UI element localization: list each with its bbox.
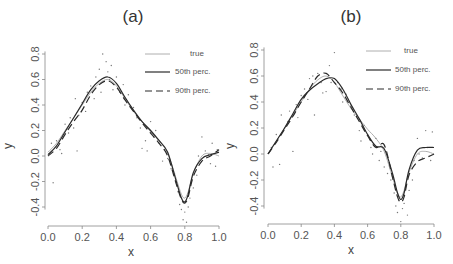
data-point bbox=[276, 134, 277, 135]
legend-p50-label: 50th perc. bbox=[395, 65, 431, 74]
data-point bbox=[99, 69, 100, 70]
data-point bbox=[309, 78, 310, 79]
data-point bbox=[193, 187, 194, 188]
series-50th-perc- bbox=[48, 77, 219, 202]
legend-true-label: true bbox=[190, 49, 204, 58]
data-point bbox=[100, 92, 101, 93]
y-tick-label: 0.6 bbox=[29, 72, 41, 87]
panel-a-title: (a) bbox=[123, 7, 144, 26]
data-point bbox=[330, 82, 331, 83]
data-point bbox=[93, 98, 94, 99]
panel-a-ylabel: y bbox=[1, 143, 15, 149]
x-tick-label: 0.4 bbox=[327, 229, 342, 241]
data-point bbox=[85, 111, 86, 112]
data-point bbox=[59, 149, 60, 150]
panel-a-legend: true 50th perc. 90th perc. bbox=[145, 49, 211, 95]
data-point bbox=[170, 168, 171, 169]
data-point bbox=[56, 140, 57, 141]
data-point bbox=[370, 147, 371, 148]
data-point bbox=[150, 121, 151, 122]
panel-b-ylabel: y bbox=[223, 143, 237, 149]
data-point bbox=[181, 209, 182, 210]
data-point bbox=[107, 71, 108, 72]
data-point bbox=[90, 85, 91, 86]
data-point bbox=[112, 89, 113, 90]
data-point bbox=[408, 190, 409, 191]
data-point bbox=[307, 99, 308, 100]
series-90th-perc- bbox=[48, 81, 219, 204]
data-point bbox=[105, 61, 106, 62]
data-point bbox=[123, 84, 124, 85]
data-point bbox=[329, 65, 330, 66]
data-point bbox=[111, 65, 112, 66]
data-point bbox=[395, 205, 396, 206]
data-point bbox=[133, 107, 134, 108]
data-point bbox=[354, 114, 355, 115]
x-tick-label: 1.0 bbox=[426, 229, 441, 241]
panel-b-scatter bbox=[271, 52, 433, 222]
data-point bbox=[128, 94, 129, 95]
legend-p90-label: 90th perc. bbox=[395, 84, 431, 93]
data-point bbox=[402, 208, 403, 209]
data-point bbox=[196, 174, 197, 175]
y-tick-label: 0.8 bbox=[248, 42, 260, 57]
y-tick-label: 0.4 bbox=[29, 97, 41, 112]
panel-b-title: (b) bbox=[341, 7, 362, 26]
panel-b-legend: true 50th perc. 90th perc. bbox=[366, 46, 431, 93]
data-point bbox=[279, 164, 280, 165]
data-point bbox=[384, 166, 385, 167]
data-point bbox=[393, 192, 394, 193]
data-point bbox=[76, 150, 77, 151]
data-point bbox=[372, 153, 373, 154]
data-point bbox=[75, 98, 76, 99]
data-point bbox=[64, 123, 65, 124]
data-point bbox=[145, 140, 146, 141]
data-point bbox=[198, 155, 199, 156]
data-point bbox=[301, 95, 302, 96]
data-point bbox=[390, 179, 391, 180]
data-point bbox=[182, 219, 183, 220]
data-point bbox=[184, 211, 185, 212]
y-tick-label: 0.2 bbox=[248, 120, 260, 135]
y-tick-label: 0.4 bbox=[248, 94, 260, 109]
data-point bbox=[102, 53, 103, 54]
x-tick-label: 0.4 bbox=[109, 231, 124, 243]
data-point bbox=[155, 130, 156, 131]
y-tick-label: -0.2 bbox=[248, 171, 260, 190]
series-50th-perc- bbox=[268, 78, 434, 200]
data-point bbox=[70, 117, 71, 118]
data-point bbox=[412, 179, 413, 180]
data-point bbox=[432, 131, 433, 132]
data-point bbox=[360, 140, 361, 141]
data-point bbox=[400, 221, 401, 222]
data-point bbox=[387, 173, 388, 174]
data-point bbox=[167, 158, 168, 159]
x-tick-label: 1.0 bbox=[211, 231, 226, 243]
data-point bbox=[116, 76, 117, 77]
data-point bbox=[52, 182, 53, 183]
data-point bbox=[146, 150, 147, 151]
data-point bbox=[397, 212, 398, 213]
data-point bbox=[297, 117, 298, 118]
y-tick-label: -0.4 bbox=[29, 198, 41, 217]
x-tick-label: 0.0 bbox=[40, 231, 55, 243]
x-tick-label: 0.0 bbox=[260, 229, 275, 241]
panel-b: (b) y x -0.4-0.20.00.20.40.60.80.00.20.4… bbox=[223, 7, 442, 257]
data-point bbox=[124, 104, 125, 105]
data-point bbox=[342, 101, 343, 102]
data-point bbox=[215, 166, 216, 167]
data-point bbox=[186, 222, 187, 223]
panel-a-lines bbox=[48, 77, 219, 203]
y-tick-label: -0.2 bbox=[29, 172, 41, 191]
x-tick-label: 0.8 bbox=[177, 231, 192, 243]
data-point bbox=[407, 214, 408, 215]
data-point bbox=[325, 91, 326, 92]
data-point bbox=[281, 114, 282, 115]
panel-a: (a) y x -0.4-0.20.00.20.40.60.80.00.20.4… bbox=[1, 7, 227, 259]
data-point bbox=[141, 148, 142, 149]
figure: (a) y x -0.4-0.20.00.20.40.60.80.00.20.4… bbox=[0, 0, 453, 264]
data-point bbox=[418, 153, 419, 154]
legend-p50-label: 50th perc. bbox=[175, 67, 211, 76]
legend-true-label: true bbox=[404, 46, 418, 55]
data-point bbox=[189, 197, 190, 198]
